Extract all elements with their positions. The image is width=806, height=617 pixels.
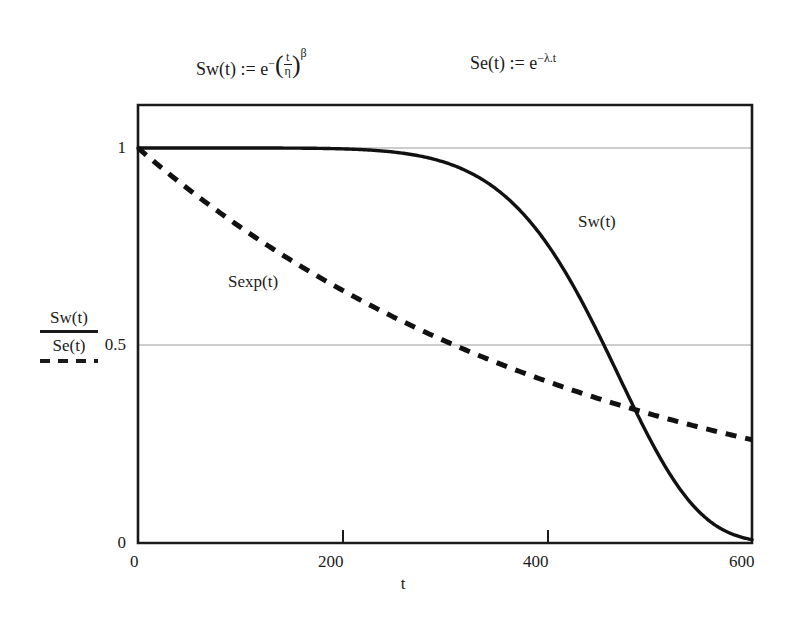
frame-border xyxy=(138,105,752,543)
series-weibull xyxy=(138,148,752,540)
series-exponential xyxy=(138,148,752,440)
plot-area xyxy=(0,0,806,617)
figure-container: Sw(t) := e−(tη)β Se(t) := e−λ.t Sw(t) Se… xyxy=(0,0,806,617)
x-axis-ticks xyxy=(343,530,548,543)
gridlines xyxy=(138,148,752,345)
curve-weibull xyxy=(138,148,752,540)
plot-frame xyxy=(138,105,752,543)
curve-exponential xyxy=(138,148,752,440)
